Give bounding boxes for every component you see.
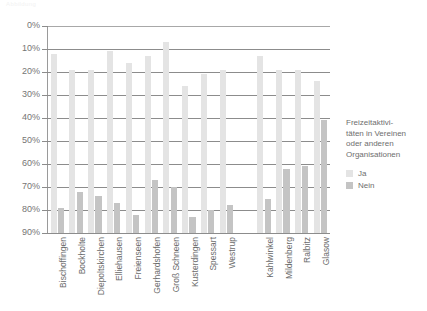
legend-title-line: Organisationen bbox=[346, 150, 424, 161]
legend-label: Nein bbox=[358, 181, 374, 190]
x-axis-tick-label: Bockholte bbox=[78, 237, 87, 274]
x-axis-tick-label: Bischoffingen bbox=[59, 237, 68, 288]
y-axis-tick bbox=[42, 49, 48, 50]
legend-entries: JaNein bbox=[346, 169, 426, 190]
x-axis-tick-label: Mildenberg bbox=[285, 237, 294, 279]
legend-item-ja[interactable]: Ja bbox=[346, 169, 426, 178]
y-axis-tick bbox=[42, 95, 48, 96]
x-axis-tick-label: Gerhardshofen bbox=[153, 237, 162, 294]
legend-swatch-icon bbox=[346, 170, 353, 177]
chart-legend: Freizeitaktivi-täten in Vereinenoder and… bbox=[346, 118, 426, 190]
y-axis-tick bbox=[42, 72, 48, 73]
bar-chart: 0%10%20%30%40%50%60%70%80%90% Bischoffin… bbox=[0, 0, 427, 311]
y-axis-tick bbox=[42, 210, 48, 211]
y-axis-tick bbox=[42, 187, 48, 188]
x-axis-tick-label: Kusterdingen bbox=[191, 237, 200, 287]
y-axis-tick bbox=[42, 233, 48, 234]
x-axis-tick-label: Diepoltskirchen bbox=[97, 237, 106, 295]
legend-title-line: Freizeitaktivi- bbox=[346, 118, 424, 129]
x-axis-tick-label: Ralbitz bbox=[303, 237, 312, 263]
legend-title-line: oder anderen bbox=[346, 139, 424, 150]
x-axis-tick-label: Glasow bbox=[322, 237, 331, 265]
y-axis-tick bbox=[42, 118, 48, 119]
y-axis-tick bbox=[42, 164, 48, 165]
legend-swatch-icon bbox=[346, 182, 353, 189]
x-axis-tick-label: Freienseen bbox=[134, 237, 143, 280]
x-axis-tick-label: Westrup bbox=[228, 237, 237, 269]
legend-label: Ja bbox=[358, 169, 366, 178]
legend-title-line: täten in Vereinen bbox=[346, 129, 424, 140]
x-axis-tick-label: Elliehausen bbox=[115, 237, 124, 281]
legend-item-nein[interactable]: Nein bbox=[346, 181, 426, 190]
x-axis-tick-label: Kahlwinkel bbox=[266, 237, 275, 278]
x-axis-tick-label: Spessart bbox=[209, 237, 218, 271]
x-axis-tick-label: Groß Schneen bbox=[172, 237, 181, 292]
y-axis-tick bbox=[42, 26, 48, 27]
legend-title: Freizeitaktivi-täten in Vereinenoder and… bbox=[346, 118, 424, 160]
y-axis-tick bbox=[42, 141, 48, 142]
